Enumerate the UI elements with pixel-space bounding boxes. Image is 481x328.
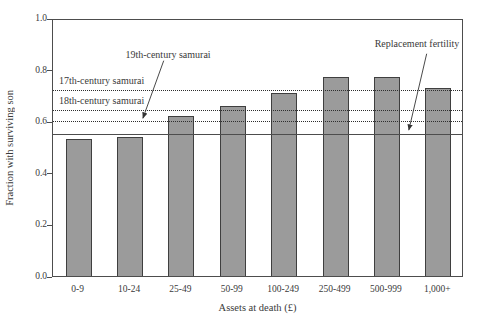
y-tick-mark — [47, 122, 52, 123]
bar-250-499 — [323, 77, 349, 276]
y-tick-label-1.0: 1.0 — [17, 13, 47, 23]
callout-arrow-icon — [409, 54, 427, 130]
bar-1,000+ — [425, 88, 451, 276]
y-tick-mark — [47, 70, 52, 71]
y-tick-mark — [47, 225, 52, 226]
reference-line-label-2: 18th-century samurai — [59, 95, 144, 106]
y-tick-label-0.4: 0.4 — [17, 168, 47, 178]
reference-line-label-4: Replacement fertility — [375, 38, 460, 49]
reference-line-1 — [53, 90, 462, 91]
x-axis-title: Assets at death (£) — [52, 302, 463, 313]
callout-arrows-layer — [53, 20, 462, 276]
y-tick-mark — [47, 277, 52, 278]
y-tick-label-0.6: 0.6 — [17, 116, 47, 126]
y-axis-title: Fraction with surviving son — [4, 90, 15, 206]
reference-line-label-3: 19th-century samurai — [125, 49, 210, 60]
reference-line-4 — [53, 134, 462, 135]
y-tick-label-0.0: 0.0 — [17, 271, 47, 281]
y-tick-label-0.8: 0.8 — [17, 65, 47, 75]
bar-25-49 — [168, 116, 194, 276]
reference-line-2 — [53, 110, 462, 111]
y-tick-mark — [47, 19, 52, 20]
y-axis-title-wrap: Fraction with surviving son — [0, 19, 18, 277]
bar-0-9 — [66, 139, 92, 276]
bar-10-24 — [117, 137, 143, 276]
chart-figure: Fraction with surviving son 17th-century… — [0, 0, 481, 328]
x-tick-label-1,000+: 1,000+ — [407, 284, 467, 294]
y-tick-mark — [47, 173, 52, 174]
plot-area: 17th-century samurai18th-century samurai… — [52, 19, 463, 277]
bar-500-999 — [374, 77, 400, 276]
y-tick-label-0.2: 0.2 — [17, 219, 47, 229]
reference-line-label-1: 17th-century samurai — [59, 75, 144, 86]
bar-50-99 — [220, 106, 246, 276]
reference-line-3 — [53, 121, 462, 122]
